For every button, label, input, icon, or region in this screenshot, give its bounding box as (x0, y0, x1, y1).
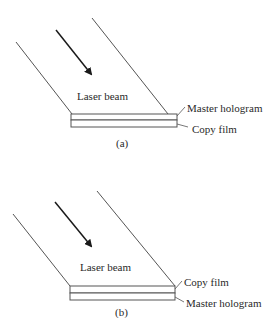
beam-label: Laser beam (77, 90, 128, 102)
layer-top-copy-film (70, 286, 175, 293)
layer-label-bottom: Master hologram (186, 297, 262, 309)
beam-edge-left (13, 214, 70, 286)
beam-direction-arrow-icon (55, 202, 91, 246)
layer-bottom-copy-film (71, 120, 177, 127)
beam-label: Laser beam (80, 261, 131, 273)
leader-line-bottom (175, 297, 184, 302)
layer-top-master-hologram (71, 114, 177, 120)
panel-a: Laser beam Master hologram Copy film (a) (16, 18, 263, 150)
panel-caption: (b) (115, 306, 128, 318)
layer-label-top: Master hologram (187, 102, 263, 114)
panel-caption: (a) (116, 137, 129, 150)
leader-line-top (177, 107, 185, 116)
hologram-copy-diagram: Laser beam Master hologram Copy film (a)… (0, 0, 277, 318)
leader-line-bottom (177, 124, 188, 127)
beam-direction-arrow-icon (56, 30, 91, 74)
panel-b: Laser beam Copy film Master hologram (b) (13, 191, 262, 318)
layer-label-top: Copy film (184, 276, 229, 288)
beam-edge-left (16, 42, 72, 114)
layer-bottom-master-hologram (70, 293, 175, 300)
leader-line-top (175, 281, 182, 289)
layer-label-bottom: Copy film (192, 123, 237, 135)
